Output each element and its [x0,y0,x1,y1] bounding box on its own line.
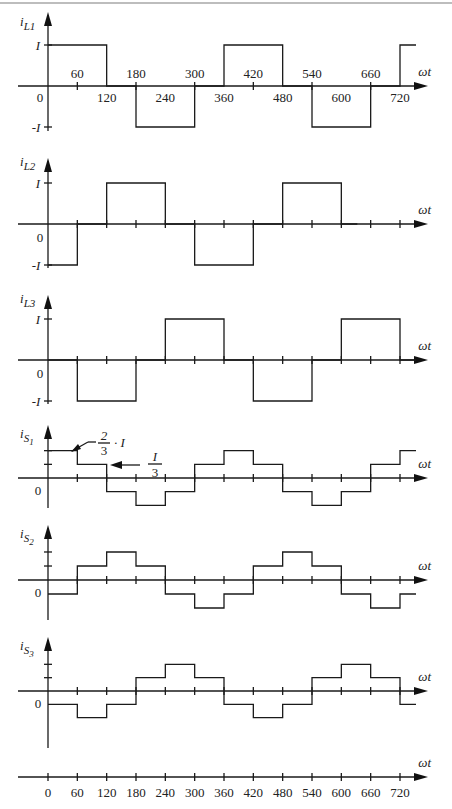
x-tick-label: 420 [244,66,264,81]
neg-I-label: -I [32,120,41,135]
zero-label: 0 [37,366,44,381]
y-axis-label: iS2 [20,526,34,547]
x-tick-label: 480 [273,785,293,800]
x-axis-arrow-icon [414,356,428,364]
x-tick-label: 120 [97,90,117,105]
y-axis-label: iL3 [20,291,36,309]
zero-label: 0 [37,230,44,245]
y-axis-arrow-icon [44,295,52,309]
two-thirds-numerator: 2 [101,428,108,443]
omega-t-label: ωt [418,558,431,573]
y-axis-label: iS1 [20,426,34,447]
x-axis-arrow-icon [414,773,428,781]
panel-iS2: ωt0iS2 [18,525,431,620]
x-axis-arrow-icon [414,474,428,482]
x-tick-label: 360 [214,785,234,800]
x-tick-label: 240 [156,785,176,800]
x-tick-label: 540 [302,66,322,81]
y-axis-label: iS3 [20,638,34,659]
I-label: I [35,176,41,191]
y-axis-arrow-icon [44,158,52,172]
panel-iL1: ωt060120180240300360420480540600660720I-… [18,12,431,135]
I-label: I [35,312,41,327]
x-tick-label: 600 [332,785,352,800]
y-axis-arrow-icon [44,425,52,439]
x-axis-arrow-icon [414,576,428,584]
one-third-numerator: I [152,449,158,464]
omega-t-label: ωt [418,64,431,79]
x-axis-arrow-icon [414,82,428,90]
x-tick-label: 120 [97,785,117,800]
I-label: I [35,38,41,53]
panel-angle-axis: ωt060120180240300360420480540600660720 [18,755,431,800]
x-tick-label: 720 [390,785,410,800]
zero-label: 0 [35,483,42,498]
neg-I-label: -I [32,394,41,409]
x-tick-label: 60 [71,785,84,800]
annotation-arrow-icon [110,461,122,469]
x-tick-label: 60 [71,66,84,81]
x-tick-label: 0 [37,90,44,105]
omega-t-label: ωt [418,669,431,684]
two-thirds-denominator: 3 [101,443,108,458]
x-tick-label: 480 [273,90,293,105]
x-tick-label: 660 [361,66,381,81]
x-tick-label: 420 [244,785,264,800]
x-tick-label: 300 [185,66,205,81]
x-axis-arrow-icon [414,687,428,695]
y-axis-label: iL1 [20,14,35,32]
x-tick-label: 600 [332,90,352,105]
x-tick-label: 240 [156,90,176,105]
waveform-figure: ωt060120180240300360420480540600660720I-… [0,0,452,809]
neg-I-label: -I [32,258,41,273]
y-axis-arrow-icon [44,12,52,26]
omega-t-label: ωt [418,338,431,353]
omega-t-label: ωt [418,202,431,217]
panel-iL2: ωt0I-IiL2 [18,154,431,273]
x-tick-label: 180 [126,66,146,81]
x-tick-label: 540 [302,785,322,800]
x-tick-label: 0 [45,785,52,800]
y-axis-arrow-icon [44,637,52,651]
two-thirds-suffix: · I [114,435,126,450]
x-tick-label: 180 [126,785,146,800]
one-third-denominator: 3 [152,465,159,480]
panel-iL3: ωt0I-IiL3 [18,291,431,409]
y-axis-label: iL2 [20,154,36,172]
x-axis-arrow-icon [414,220,428,228]
panel-iS3: ωt0iS3 [18,637,431,748]
x-tick-label: 720 [390,90,410,105]
x-tick-label: 660 [361,785,381,800]
zero-label: 0 [35,696,42,711]
zero-label: 0 [35,585,42,600]
x-tick-label: 300 [185,785,205,800]
y-axis-arrow-icon [44,525,52,539]
omega-t-label: ωt [418,456,431,471]
omega-t-label: ωt [418,755,431,770]
panel-iS1: ωt0iS123· II3 [18,425,431,508]
x-tick-label: 360 [214,90,234,105]
